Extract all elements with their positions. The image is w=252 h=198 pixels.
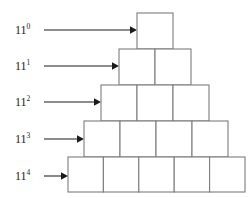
pyramid-cell (174, 157, 209, 192)
pyramid-cell (155, 49, 191, 85)
pyramid-cell (119, 49, 155, 85)
pyramid-row-4 (68, 157, 245, 192)
pyramid-row-0 (137, 13, 173, 49)
pyramid-cell (68, 157, 103, 192)
pyramid-cell (103, 157, 138, 192)
pyramid-cell (137, 85, 173, 121)
pascal-triangle-powers-of-eleven-diagram: 110 111 112 113 114 (0, 0, 252, 198)
pyramid-row-1 (119, 49, 191, 85)
pyramid-cell (173, 85, 209, 121)
pyramid-grid (0, 0, 252, 198)
pyramid-row-2 (101, 85, 209, 121)
pyramid-cell (120, 121, 156, 157)
pyramid-cell (156, 121, 192, 157)
pyramid-cell (101, 85, 137, 121)
pyramid-row-3 (84, 121, 228, 157)
pyramid-cell (210, 157, 245, 192)
pyramid-cell (84, 121, 120, 157)
pyramid-cell (192, 121, 228, 157)
pyramid-cell (137, 13, 173, 49)
pyramid-cell (139, 157, 174, 192)
